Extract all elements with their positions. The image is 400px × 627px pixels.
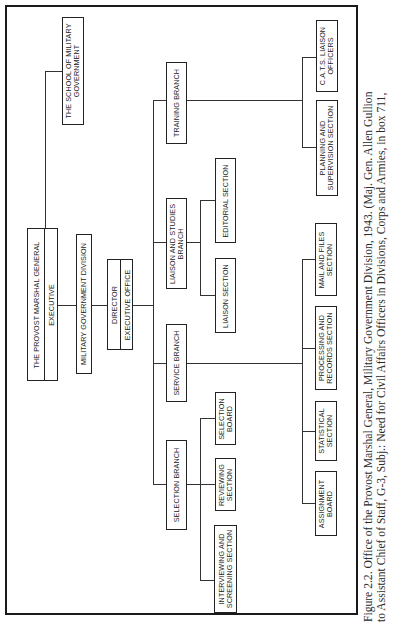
- reviewing-section-label: REVIEWING SECTION: [217, 463, 233, 505]
- processing-records-section-box: PROCESSING AND RECORDS SECTION: [315, 306, 337, 390]
- connector-mail: [302, 259, 315, 260]
- connector-statistical: [302, 431, 315, 432]
- school-label: THE SCHOOL OF MILITARY GOVERNMENT: [65, 23, 81, 118]
- editorial-section-box: EDITORIAL SECTION: [215, 158, 236, 243]
- caption-line-1: Figure 2.2. Office of the Provost Marsha…: [363, 2, 376, 622]
- connector-school: [45, 71, 62, 72]
- connector-processing: [302, 348, 315, 349]
- training-sections-line: [302, 57, 303, 147]
- trunk-line-provost-school: [45, 71, 46, 228]
- processing-records-label: PROCESSING AND RECORDS SECTION: [318, 312, 334, 383]
- connector-liaison-sections: [187, 242, 200, 243]
- selection-board-label: SELECTION BOARD: [217, 398, 233, 440]
- provost-marshal-general-box: THE PROVOST MARSHAL GENERAL EXECUTIVE: [27, 228, 58, 381]
- selection-branch-box: SELECTION BRANCH: [166, 440, 187, 530]
- liaison-section-label: LIAISON SECTION: [221, 264, 229, 328]
- training-branch-box: TRAINING BRANCH: [166, 62, 187, 144]
- figure-caption: Figure 2.2. Office of the Provost Marsha…: [363, 2, 388, 622]
- provost-title: THE PROVOST MARSHAL GENERAL: [32, 241, 40, 368]
- connector-assignment: [302, 503, 315, 504]
- caption-line-2: to Assistant Chief of Staff, G-3, Subj.:…: [376, 2, 389, 622]
- connector-liaison-branch: [153, 242, 166, 243]
- liaison-studies-branch-label: LIAISON AND STUDIES BRANCH: [168, 203, 184, 283]
- interviewing-screening-section-box: INTERVIEWING AND SCREENING SECTION: [214, 525, 237, 613]
- reviewing-section-box: REVIEWING SECTION: [215, 458, 236, 511]
- connector-division-director: [92, 305, 107, 306]
- liaison-studies-branch-box: LIAISON AND STUDIES BRANCH: [166, 198, 187, 289]
- statistical-section-box: STATISTICAL SECTION: [315, 401, 337, 461]
- branch-trunk-line: [153, 100, 154, 484]
- connector-planning: [302, 147, 316, 148]
- connector-selection-sections: [187, 484, 200, 485]
- connector-training-sections: [187, 100, 302, 101]
- connector-liaison-section: [200, 295, 215, 296]
- connector-cats: [302, 57, 316, 58]
- mail-files-label: MAIL AND FILES SECTION: [318, 231, 334, 288]
- planning-supervision-label: PLANNING AND SUPERVISION SECTION: [319, 106, 335, 191]
- training-branch-label: TRAINING BRANCH: [172, 69, 180, 137]
- statistical-section-label: STATISTICAL SECTION: [318, 408, 334, 454]
- planning-supervision-section-box: PLANNING AND SUPERVISION SECTION: [316, 100, 338, 196]
- connector-editorial: [200, 200, 215, 201]
- mail-files-section-box: MAIL AND FILES SECTION: [315, 223, 337, 296]
- cats-liaison-officers-box: C.A.T.S. LIAISON OFFICERS: [316, 20, 338, 92]
- service-branch-box: SERVICE BRANCH: [166, 324, 187, 402]
- service-sections-line: [302, 259, 303, 503]
- executive-office: EXECUTIVE OFFICE: [123, 269, 131, 340]
- connector-service-branch: [153, 363, 166, 364]
- connector-interviewing: [200, 580, 215, 581]
- assignment-board-label: ASSIGNMENT BOARD: [318, 479, 334, 528]
- assignment-board-box: ASSIGNMENT BOARD: [315, 471, 337, 536]
- school-of-military-government-box: THE SCHOOL OF MILITARY GOVERNMENT: [62, 17, 84, 125]
- selection-sections-line: [200, 418, 201, 580]
- liaison-sections-line: [200, 200, 201, 295]
- connector-service-sections: [187, 363, 302, 364]
- connector-selection-board: [200, 418, 215, 419]
- connector-director-branches: [133, 305, 153, 306]
- connector-selection-branch: [153, 484, 166, 485]
- director-title: DIRECTOR: [110, 285, 118, 323]
- service-branch-label: SERVICE BRANCH: [172, 330, 180, 395]
- liaison-section-box: LIAISON SECTION: [215, 258, 236, 333]
- connector-training-branch: [153, 100, 166, 101]
- connector-reviewing: [200, 484, 215, 485]
- selection-branch-label: SELECTION BRANCH: [172, 448, 180, 523]
- editorial-section-label: EDITORIAL SECTION: [221, 164, 229, 237]
- division-label: MILITARY GOVERNMENT DIVISION: [80, 243, 88, 365]
- interviewing-screening-label: INTERVIEWING AND SCREENING SECTION: [217, 530, 233, 608]
- director-box: DIRECTOR EXECUTIVE OFFICE: [107, 259, 133, 350]
- connector-provost-division: [58, 305, 76, 306]
- provost-executive: EXECUTIVE: [48, 284, 56, 326]
- military-government-division-box: MILITARY GOVERNMENT DIVISION: [76, 234, 92, 374]
- cats-liaison-label: C.A.T.S. LIAISON OFFICERS: [319, 27, 335, 85]
- selection-board-box: SELECTION BOARD: [215, 392, 236, 445]
